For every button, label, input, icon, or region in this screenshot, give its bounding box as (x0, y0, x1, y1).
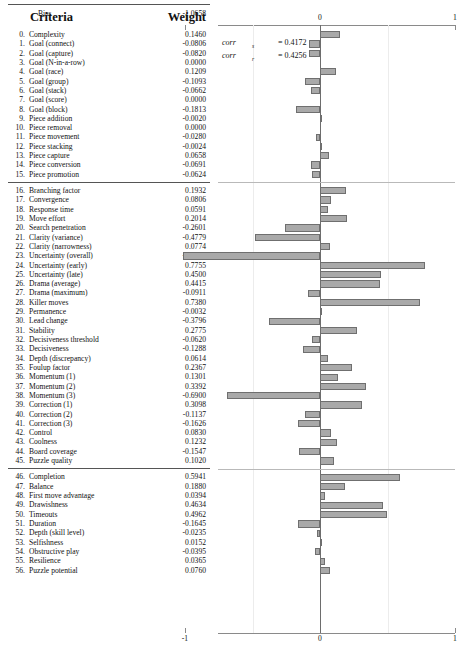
row-weight-value: 0.2014 (116, 214, 206, 223)
bar (320, 196, 331, 203)
bar (320, 558, 325, 565)
bar (285, 224, 320, 231)
bar (320, 206, 328, 213)
bias-value: -1.0658 (116, 8, 206, 20)
table-row: 56.Puzzle potential0.0760 (8, 566, 208, 575)
bar (320, 567, 330, 574)
table-row: 6.Goal (stack)-0.0662 (8, 86, 208, 95)
table-row: 15.Piece promotion-0.0624 (8, 170, 208, 179)
bar (315, 548, 320, 555)
bar (299, 448, 320, 455)
row-index: 28. (8, 298, 25, 307)
table-row: 47.Balance0.1880 (8, 482, 208, 491)
axis-tick (455, 25, 456, 30)
row-weight-value: -0.0691 (116, 160, 206, 169)
row-criteria-label: Goal (connect) (29, 39, 74, 48)
bars (218, 0, 455, 655)
row-index: 55. (8, 556, 25, 565)
row-index: 5. (8, 77, 25, 86)
row-index: 21. (8, 233, 25, 242)
row-weight-value: -0.1547 (116, 447, 206, 456)
row-index: 53. (8, 538, 25, 547)
row-criteria-label: Decisiveness (29, 344, 69, 353)
table-row: 36.Momentum (1)0.1301 (8, 372, 208, 381)
row-index: 2. (8, 49, 25, 58)
bar (320, 364, 352, 371)
table-row: 25.Uncertainty (late)0.4500 (8, 270, 208, 279)
row-index: 45. (8, 456, 25, 465)
table-row: 40.Correction (2)-0.1137 (8, 410, 208, 419)
row-index: 40. (8, 410, 25, 419)
row-weight-value: -0.6900 (116, 391, 206, 400)
bar (227, 392, 320, 399)
table-row: 50.Timeouts0.4962 (8, 510, 208, 519)
row-index: 49. (8, 500, 25, 509)
bar (298, 520, 320, 527)
group-separator (218, 469, 455, 470)
correlation-annotation: corr s = 0.4172 corr r = 0.4256 (222, 36, 382, 62)
table-row: 9.Piece addition-0.0020 (8, 114, 208, 123)
row-index: 20. (8, 223, 25, 232)
row-criteria-label: Drama (maximum) (29, 288, 87, 297)
row-index: 50. (8, 510, 25, 519)
row-index: 15. (8, 170, 25, 179)
row-criteria-label: Depth (skill level) (29, 528, 84, 537)
row-weight-value: -0.1288 (116, 344, 206, 353)
bar (320, 429, 331, 436)
table-row: 43.Coolness0.1232 (8, 437, 208, 446)
table-row: 45.Puzzle quality0.1020 (8, 456, 208, 465)
correlation-value-spearman: = 0.4172 (278, 36, 307, 49)
row-criteria-label: Completion (29, 472, 65, 481)
row-criteria-label: Goal (score) (29, 95, 67, 104)
row-index: 44. (8, 447, 25, 456)
row-weight-value: -0.0280 (116, 132, 206, 141)
row-weight-value: -0.1093 (116, 77, 206, 86)
row-criteria-label: Obstructive play (29, 547, 79, 556)
table-row: 22.Clarity (narrowness)0.0774 (8, 242, 208, 251)
row-criteria-label: Depth (discrepancy) (29, 354, 91, 363)
row-index: 39. (8, 400, 25, 409)
row-index: 24. (8, 261, 25, 270)
table-row: 10.Piece removal0.0000 (8, 123, 208, 132)
row-criteria-label: Puzzle quality (29, 456, 72, 465)
bar (320, 401, 362, 408)
table-row: 33.Decisiveness-0.1288 (8, 344, 208, 353)
bar (312, 336, 320, 343)
row-weight-value: -0.2601 (116, 223, 206, 232)
bar (305, 78, 320, 85)
bar (320, 262, 425, 269)
row-weight-value: -0.0032 (116, 307, 206, 316)
row-weight-value: 0.3098 (116, 400, 206, 409)
row-weight-value: 0.4500 (116, 270, 206, 279)
bar (305, 411, 320, 418)
row-index: 3. (8, 58, 25, 67)
correlation-line: corr s = 0.4172 (222, 36, 382, 49)
table-row: 37.Momentum (2)0.3392 (8, 382, 208, 391)
row-weight-value: 0.0000 (116, 123, 206, 132)
row-criteria-label: Stability (29, 326, 55, 335)
row-weight-value: -0.0024 (116, 142, 206, 151)
table-row: 39.Correction (1)0.3098 (8, 400, 208, 409)
row-index: 12. (8, 142, 25, 151)
bar (320, 280, 380, 287)
row-index: 0. (8, 30, 25, 39)
row-index: 7. (8, 95, 25, 104)
row-weight-value: 0.0614 (116, 354, 206, 363)
table-row: 52.Depth (skill level)-0.0235 (8, 528, 208, 537)
row-weight-value: 0.4634 (116, 500, 206, 509)
row-index: 19. (8, 214, 25, 223)
row-criteria-label: Uncertainty (late) (29, 270, 83, 279)
weights-figure: Criteria Weight 0.Complexity0.14601.Goal… (0, 0, 457, 655)
row-criteria-label: Board coverage (29, 447, 77, 456)
row-criteria-label: First move advantage (29, 491, 94, 500)
row-criteria-label: Selfishness (29, 538, 63, 547)
row-index: 47. (8, 482, 25, 491)
bar (320, 374, 338, 381)
table-row: 48.First move advantage0.0394 (8, 491, 208, 500)
row-index: 41. (8, 419, 25, 428)
bar (320, 271, 381, 278)
row-index: 1. (8, 39, 25, 48)
row-index: 29. (8, 307, 25, 316)
axis-tick-label: -1 (182, 14, 188, 22)
row-criteria-label: Killer moves (29, 298, 68, 307)
